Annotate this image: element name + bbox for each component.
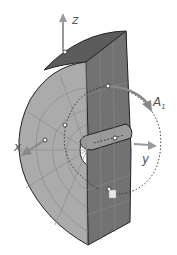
z-axis-label: z — [71, 13, 79, 27]
rotation-axis-label: A1 — [152, 95, 166, 111]
diagram-canvas: z A1 x y — [0, 0, 177, 255]
square-marker — [109, 190, 116, 198]
y-axis-label: y — [141, 152, 150, 166]
x-axis-label: x — [13, 140, 22, 154]
marker-point — [63, 123, 67, 127]
